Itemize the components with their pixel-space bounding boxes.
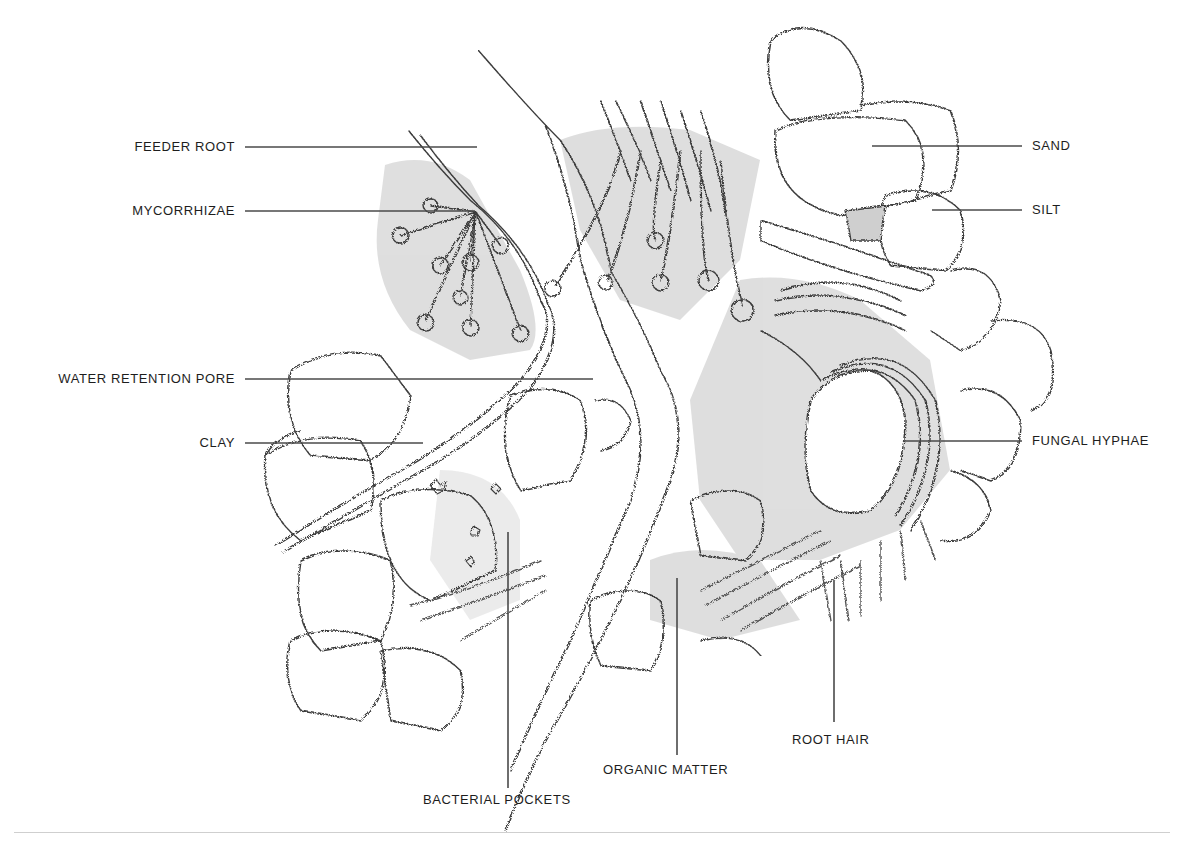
label-bacterial-pockets: BACTERIAL POCKETS: [423, 792, 571, 808]
label-mycorrhizae: MYCORRHIZAE: [132, 203, 235, 219]
label-feeder-root: FEEDER ROOT: [135, 139, 236, 155]
label-organic-matter: ORGANIC MATTER: [603, 762, 728, 778]
label-water-retention-pore: WATER RETENTION PORE: [58, 371, 235, 387]
label-clay: CLAY: [200, 435, 235, 451]
label-root-hair: ROOT HAIR: [792, 732, 869, 748]
label-sand: SAND: [1032, 138, 1071, 154]
label-silt: SILT: [1032, 202, 1061, 218]
label-fungal-hyphae: FUNGAL HYPHAE: [1032, 433, 1149, 449]
soil-illustration: [0, 0, 1197, 848]
soil-diagram: FEEDER ROOT MYCORRHIZAE WATER RETENTION …: [0, 0, 1197, 848]
bottom-divider: [14, 832, 1170, 833]
